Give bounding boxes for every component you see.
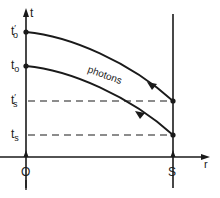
- t-axis-label: t: [30, 6, 34, 20]
- label-t-s-prime: t′s: [11, 92, 18, 109]
- spacetime-diagram: t r O S t′o to t′s ts photons: [0, 0, 220, 198]
- label-t-o: to: [11, 58, 19, 74]
- r-axis-label: r: [204, 158, 208, 170]
- label-t-s: ts: [11, 127, 19, 143]
- svg-text:t′s: t′s: [11, 92, 18, 109]
- source-up-arrow-icon: [171, 150, 176, 157]
- event-dot-t-s-prime: [170, 98, 175, 103]
- label-t-o-prime: t′o: [11, 23, 18, 40]
- observer-label: O: [21, 165, 30, 179]
- source-label: S: [168, 165, 176, 179]
- svg-text:ts: ts: [11, 127, 19, 143]
- observer-up-arrow-icon: [24, 150, 29, 157]
- event-dot-t-o-prime: [23, 29, 28, 34]
- r-axis: [0, 154, 210, 160]
- svg-text:t′o: t′o: [11, 23, 18, 40]
- event-dot-t-o: [23, 63, 28, 68]
- photons-label: photons: [86, 64, 123, 87]
- svg-text:to: to: [11, 58, 19, 74]
- t-axis: [23, 8, 29, 188]
- event-dot-t-s: [170, 132, 175, 137]
- t-axis-arrow-icon: [23, 8, 29, 17]
